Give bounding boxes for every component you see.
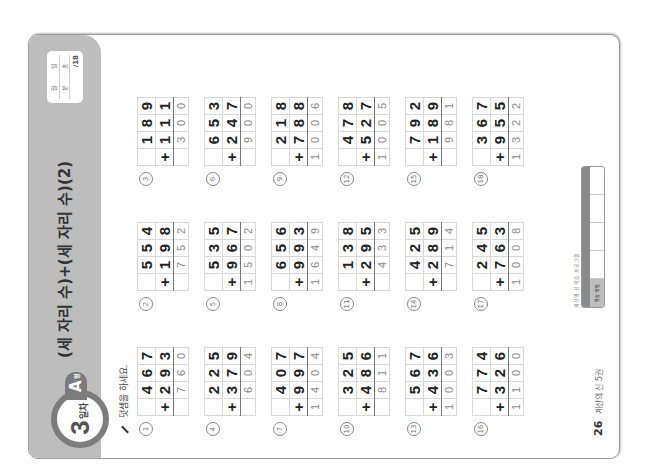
answer-digit[interactable]: 1 [308, 399, 323, 416]
answer-digit[interactable]: 4 [442, 223, 457, 240]
answer-digit[interactable]: 2 [509, 98, 524, 115]
answer-digit[interactable]: 1 [442, 240, 457, 257]
answer-digit[interactable]: 0 [308, 115, 323, 132]
plus-sign: + [223, 149, 241, 166]
answer-digit[interactable] [241, 149, 256, 166]
top-digit: 4 [406, 257, 424, 274]
plus-sign: + [357, 149, 375, 166]
plus-sign: + [156, 274, 174, 291]
answer-digit[interactable] [375, 399, 390, 416]
answer-digit[interactable]: 0 [509, 365, 524, 382]
answer-digit[interactable] [174, 274, 189, 291]
plus-sign: + [491, 274, 509, 291]
answer-digit[interactable]: 2 [241, 223, 256, 240]
bottom-digit: 9 [357, 240, 375, 257]
problem-9: 9218+7881006 [271, 61, 338, 186]
answer-digit[interactable]: 8 [509, 223, 524, 240]
bottom-digit: 8 [424, 115, 442, 132]
answer-digit[interactable]: 0 [509, 240, 524, 257]
answer-digit[interactable] [375, 274, 390, 291]
answer-digit[interactable]: 8 [442, 115, 457, 132]
worksheet-page: 3 일차 A 형 (세 자리 수)+(세 자리 수)(2) 월 일 분 초 /1… [28, 34, 620, 459]
answer-digit[interactable] [442, 274, 457, 291]
answer-digit[interactable]: 4 [241, 348, 256, 365]
answer-digit[interactable]: 6 [174, 365, 189, 382]
answer-digit[interactable]: 3 [174, 132, 189, 149]
answer-digit[interactable]: 3 [442, 348, 457, 365]
answer-digit[interactable]: 1 [308, 149, 323, 166]
answer-digit[interactable]: 0 [509, 257, 524, 274]
bottom-digit: 7 [357, 98, 375, 115]
rotated-page: 3 일차 A 형 (세 자리 수)+(세 자리 수)(2) 월 일 분 초 /1… [28, 0, 588, 459]
answer-digit[interactable]: 7 [174, 257, 189, 274]
answer-digit[interactable]: 6 [241, 382, 256, 399]
answer-digit[interactable]: 3 [509, 132, 524, 149]
book-title: 계산의 신 5권 [595, 369, 604, 414]
bottom-digit: 9 [424, 98, 442, 115]
answer-digit[interactable]: 0 [241, 365, 256, 382]
addition-box: 367+9551322 [472, 97, 524, 166]
plus-sign: + [491, 399, 509, 416]
top-digit: 4 [473, 240, 491, 257]
answer-digit[interactable]: 4 [375, 257, 390, 274]
answer-digit[interactable]: 4 [308, 348, 323, 365]
answer-digit[interactable]: 1 [442, 399, 457, 416]
answer-digit[interactable]: 2 [509, 115, 524, 132]
empty-cell [339, 399, 357, 416]
top-digit: 0 [272, 365, 290, 382]
answer-digit[interactable] [442, 149, 457, 166]
answer-digit[interactable]: 1 [509, 149, 524, 166]
answer-digit[interactable]: 5 [375, 98, 390, 115]
answer-digit[interactable]: 0 [174, 348, 189, 365]
answer-digit[interactable]: 4 [308, 382, 323, 399]
answer-digit[interactable]: 0 [241, 115, 256, 132]
answer-digit[interactable]: 2 [174, 223, 189, 240]
answer-digit[interactable]: 1 [375, 348, 390, 365]
answer-digit[interactable]: 1 [442, 98, 457, 115]
answer-digit[interactable]: 6 [308, 257, 323, 274]
answer-digit[interactable]: 7 [174, 382, 189, 399]
answer-digit[interactable]: 4 [308, 240, 323, 257]
answer-digit[interactable]: 9 [442, 132, 457, 149]
score-box: 월 일 분 초 /18 [47, 51, 83, 103]
plus-sign: + [290, 399, 308, 416]
problem-number: 15 [407, 172, 421, 186]
answer-digit[interactable]: 6 [308, 98, 323, 115]
answer-digit[interactable]: 1 [375, 149, 390, 166]
answer-digit[interactable]: 0 [308, 132, 323, 149]
answer-digit[interactable]: 3 [375, 240, 390, 257]
top-digit: 7 [406, 132, 424, 149]
bottom-digit: 9 [290, 382, 308, 399]
problem-number: 4 [206, 422, 220, 436]
answer-digit[interactable]: 1 [509, 399, 524, 416]
answer-digit[interactable]: 5 [174, 240, 189, 257]
answer-digit[interactable]: 9 [308, 223, 323, 240]
answer-digit[interactable]: 7 [442, 257, 457, 274]
answer-digit[interactable]: 1 [509, 274, 524, 291]
answer-digit[interactable]: 0 [509, 348, 524, 365]
answer-digit[interactable]: 0 [308, 365, 323, 382]
answer-digit[interactable]: 1 [241, 274, 256, 291]
top-digit: 3 [339, 240, 357, 257]
answer-digit[interactable]: 9 [241, 132, 256, 149]
answer-digit[interactable]: 8 [375, 382, 390, 399]
answer-digit[interactable] [174, 399, 189, 416]
level-table-cell: 학습 방법 [590, 279, 604, 307]
answer-digit[interactable] [174, 149, 189, 166]
answer-digit[interactable]: 5 [241, 257, 256, 274]
answer-digit[interactable]: 0 [241, 98, 256, 115]
answer-digit[interactable]: 0 [241, 240, 256, 257]
answer-digit[interactable]: 0 [174, 115, 189, 132]
answer-digit[interactable]: 0 [375, 132, 390, 149]
answer-digit[interactable]: 1 [308, 274, 323, 291]
answer-digit[interactable]: 0 [442, 382, 457, 399]
answer-digit[interactable]: 1 [509, 382, 524, 399]
pencil-icon [121, 426, 129, 434]
answer-digit[interactable] [241, 399, 256, 416]
empty-cell [138, 274, 156, 291]
answer-digit[interactable]: 0 [174, 98, 189, 115]
answer-digit[interactable]: 0 [375, 115, 390, 132]
answer-digit[interactable]: 3 [375, 223, 390, 240]
answer-digit[interactable]: 1 [375, 365, 390, 382]
answer-digit[interactable]: 0 [442, 365, 457, 382]
